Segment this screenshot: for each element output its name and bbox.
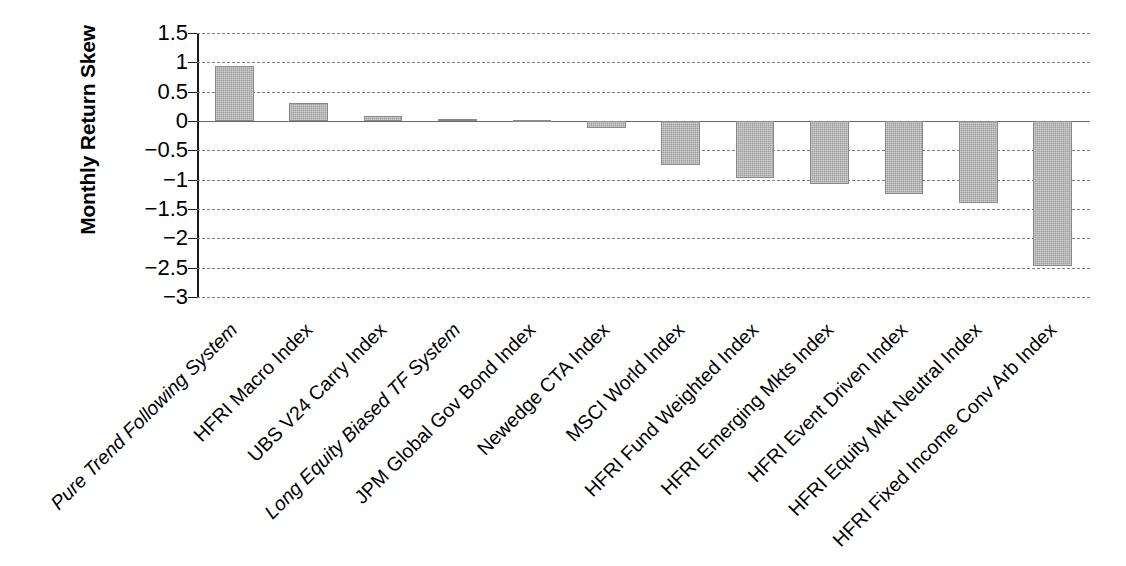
bar[interactable] [215, 66, 254, 121]
chart-figure: Monthly Return Skew 1.510.50−0.5−1−1.5−2… [0, 0, 1126, 566]
gridline [197, 121, 1090, 122]
bar[interactable] [661, 121, 700, 165]
y-axis-tick [188, 62, 197, 63]
bar[interactable] [1033, 121, 1072, 266]
y-axis-tick-label: 0.5 [157, 79, 188, 105]
bar[interactable] [810, 121, 849, 184]
y-axis-tick [188, 150, 197, 151]
y-axis-tick-labels: 1.510.50−0.5−1−1.5−2−2.5−3 [116, 33, 188, 297]
gridline [197, 238, 1090, 239]
bar[interactable] [513, 120, 552, 122]
y-axis-tick [188, 297, 197, 298]
y-axis-tick-label: −0.5 [145, 137, 188, 163]
gridline [197, 92, 1090, 93]
gridline [197, 150, 1090, 151]
gridline [197, 62, 1090, 63]
bar[interactable] [289, 103, 328, 121]
bar[interactable] [364, 116, 403, 121]
bar[interactable] [438, 119, 477, 121]
y-axis-tick [188, 180, 197, 181]
y-axis-tick-label: 0 [176, 108, 188, 134]
y-axis-tick-label: −2 [163, 225, 188, 251]
gridline [197, 180, 1090, 181]
y-axis-tick [188, 268, 197, 269]
gridline [197, 209, 1090, 210]
bar[interactable] [736, 121, 775, 178]
y-axis-tick-label: 1 [176, 49, 188, 75]
y-axis-tick [188, 92, 197, 93]
plot-area [197, 33, 1090, 297]
y-axis-tick-label: −1.5 [145, 196, 188, 222]
bar[interactable] [959, 121, 998, 203]
y-axis-tick-label: −1 [163, 167, 188, 193]
bar[interactable] [885, 121, 924, 194]
y-axis-tick [188, 238, 197, 239]
y-axis-tick [188, 33, 197, 34]
y-axis-tick-label: −2.5 [145, 255, 188, 281]
y-axis-tick [188, 209, 197, 210]
y-axis-tick-label: 1.5 [157, 20, 188, 46]
gridline [197, 33, 1090, 34]
y-axis-tick [188, 121, 197, 122]
y-axis-tick-label: −3 [163, 284, 188, 310]
gridline [197, 297, 1090, 298]
y-axis-title: Monthly Return Skew [76, 0, 100, 280]
y-axis-spine [197, 33, 199, 297]
bar[interactable] [587, 121, 626, 128]
gridline [197, 268, 1090, 269]
